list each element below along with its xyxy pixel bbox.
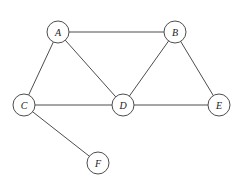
graph-node-label-b: B (172, 27, 178, 38)
graph-node-a[interactable]: A (47, 21, 69, 43)
graph-node-label-e: E (215, 100, 222, 111)
graph-svg: ABCDEF (0, 0, 247, 189)
node-layer: ABCDEF (13, 21, 230, 174)
graph-diagram-canvas: ABCDEF (0, 0, 247, 189)
graph-node-label-c: C (21, 100, 28, 111)
graph-node-label-a: A (54, 27, 62, 38)
graph-edge-a-c (29, 42, 54, 95)
graph-node-label-f: F (94, 158, 102, 169)
graph-edge-a-d (65, 40, 115, 97)
graph-edge-b-e (181, 41, 214, 95)
graph-edge-c-f (33, 112, 90, 156)
graph-node-f[interactable]: F (87, 152, 109, 174)
graph-node-b[interactable]: B (164, 21, 186, 43)
graph-node-d[interactable]: D (112, 94, 134, 116)
graph-edge-b-d (129, 41, 168, 96)
graph-node-c[interactable]: C (13, 94, 35, 116)
graph-node-label-d: D (118, 100, 127, 111)
graph-node-e[interactable]: E (208, 94, 230, 116)
